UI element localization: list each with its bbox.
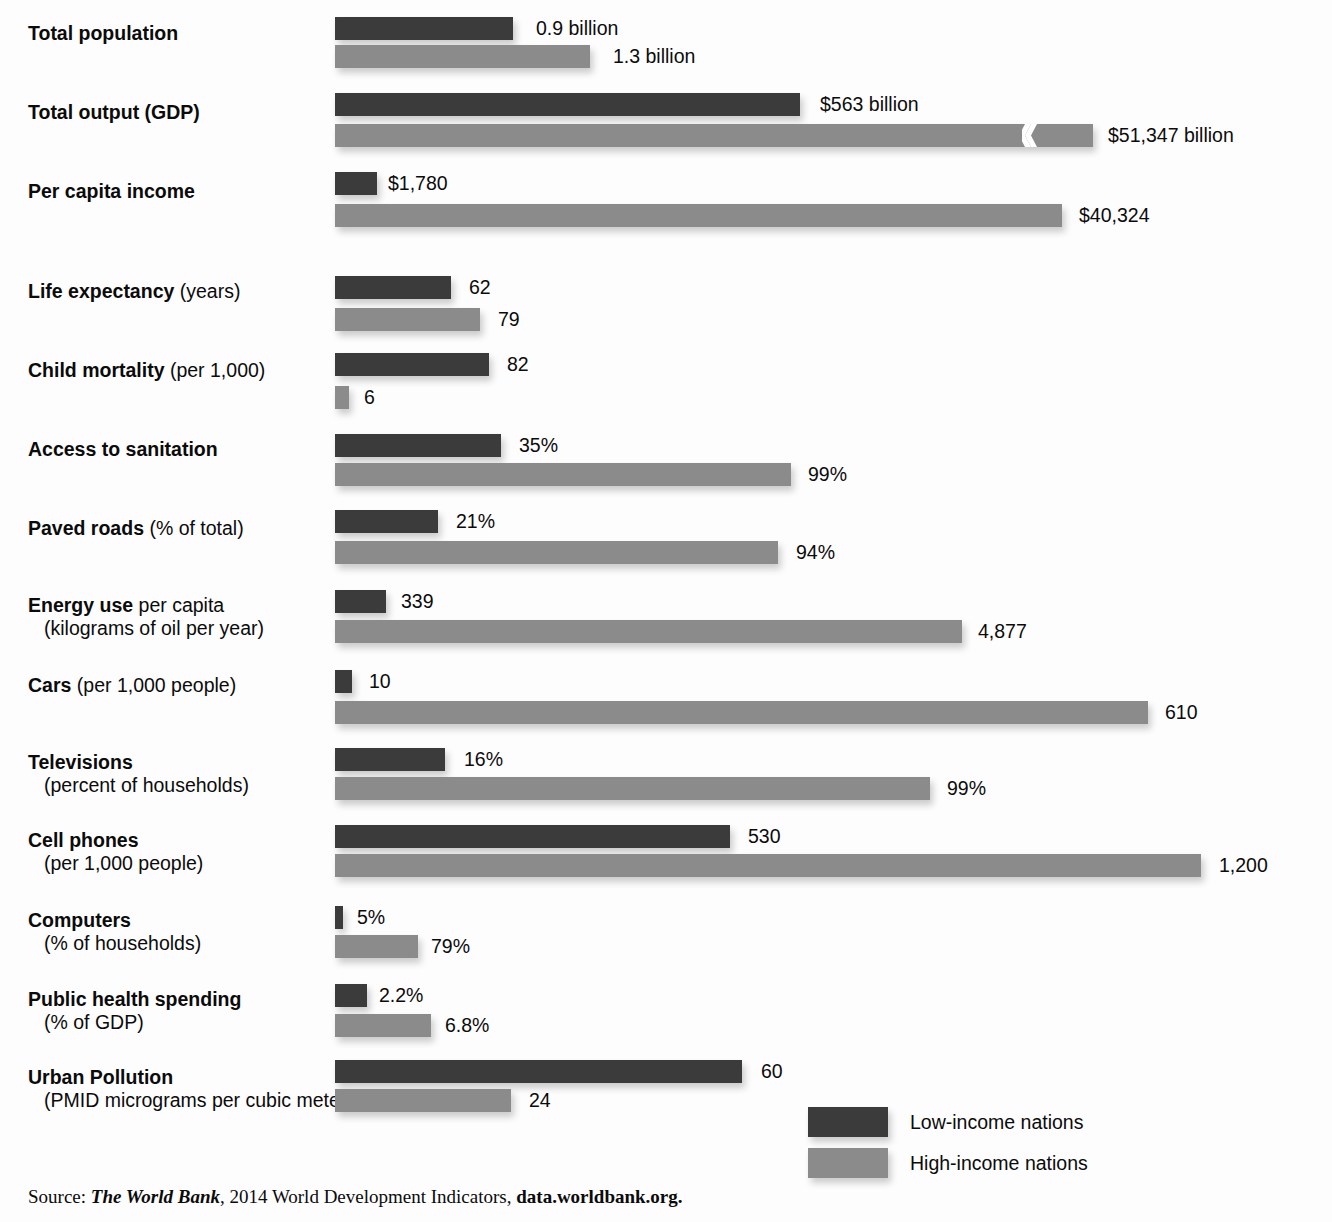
value-label-low-income: 2.2% [379, 984, 423, 1007]
row-label: Paved roads (% of total) [28, 517, 244, 540]
row-label-subtitle: (PMID micrograms per cubic meter) [28, 1089, 353, 1112]
row-label: Life expectancy (years) [28, 280, 240, 303]
value-label-high-income: 4,877 [978, 620, 1027, 643]
bar-high-income [335, 386, 349, 409]
legend-label-low-income: Low-income nations [910, 1110, 1083, 1134]
row-label-main: Total population [28, 22, 178, 44]
source-publication: The World Bank [91, 1186, 220, 1207]
bar-low-income [335, 353, 489, 376]
bar-low-income [335, 1060, 742, 1083]
legend-swatch-low-income [808, 1107, 888, 1137]
value-label-high-income: 1.3 billion [613, 45, 695, 68]
value-label-low-income: 21% [456, 510, 495, 533]
row-label-main: Total output (GDP) [28, 101, 200, 123]
value-label-low-income: 62 [469, 276, 491, 299]
bar-low-income [335, 984, 367, 1007]
bar-low-income [335, 906, 343, 929]
bar-high-income [335, 45, 590, 68]
row-label-subtitle: (% of households) [28, 932, 201, 955]
legend-label-high-income: High-income nations [910, 1151, 1088, 1175]
value-label-high-income: 99% [808, 463, 847, 486]
row-label: Cars (per 1,000 people) [28, 674, 236, 697]
bar-high-income [335, 935, 418, 958]
row-label-main: Per capita income [28, 180, 195, 202]
bar-low-income [335, 748, 445, 771]
bar-low-income [335, 510, 438, 533]
bar-high-income [335, 854, 1201, 877]
value-label-high-income: 6.8% [445, 1014, 489, 1037]
bar-low-income [335, 434, 501, 457]
row-label-subtitle: (kilograms of oil per year) [28, 617, 264, 640]
bar-high-income [335, 1014, 431, 1037]
value-label-low-income: 82 [507, 353, 529, 376]
row-label: Computers(% of households) [28, 909, 201, 955]
row-label-main: Energy use [28, 594, 133, 616]
value-label-high-income: 6 [364, 386, 375, 409]
value-label-low-income: 530 [748, 825, 781, 848]
row-label-main: Urban Pollution [28, 1066, 173, 1088]
bar-low-income [335, 590, 386, 613]
row-label: Energy use per capita(kilograms of oil p… [28, 594, 264, 640]
bar-low-income [335, 276, 451, 299]
bar-high-income [335, 620, 962, 643]
value-label-high-income: 24 [529, 1089, 551, 1112]
value-label-low-income: 16% [464, 748, 503, 771]
value-label-low-income: 10 [369, 670, 391, 693]
row-label-qualifier: (per 1,000 people) [71, 674, 236, 696]
value-label-high-income: $40,324 [1079, 204, 1150, 227]
value-label-high-income: 94% [796, 541, 835, 564]
row-label: Urban Pollution(PMID micrograms per cubi… [28, 1066, 353, 1112]
source-citation: Source: The World Bank, 2014 World Devel… [28, 1186, 683, 1208]
row-label: Child mortality (per 1,000) [28, 359, 265, 382]
axis-break-icon [1022, 124, 1038, 147]
value-label-low-income: 5% [357, 906, 385, 929]
row-label-main: Cars [28, 674, 71, 696]
bar-high-income [335, 701, 1148, 724]
row-label-qualifier: (years) [174, 280, 240, 302]
row-label-qualifier: (% of total) [144, 517, 244, 539]
bar-high-income [335, 777, 930, 800]
row-label-main: Computers [28, 909, 131, 931]
bar-high-income [335, 204, 1062, 227]
source-url: data.worldbank.org. [516, 1186, 682, 1207]
row-label: Televisions(percent of households) [28, 751, 249, 797]
bar-low-income [335, 670, 352, 693]
value-label-low-income: $1,780 [388, 172, 448, 195]
row-label-qualifier: (per 1,000) [165, 359, 266, 381]
row-label-main: Life expectancy [28, 280, 174, 302]
bar-high-income [335, 1089, 511, 1112]
value-label-high-income: 79% [431, 935, 470, 958]
development-indicators-chart: Total population0.9 billion1.3 billionTo… [0, 0, 1332, 1222]
row-label-main: Cell phones [28, 829, 139, 851]
bar-high-income [335, 308, 480, 331]
row-label: Total output (GDP) [28, 101, 200, 124]
value-label-low-income: 35% [519, 434, 558, 457]
row-label-main: Public health spending [28, 988, 241, 1010]
row-label: Total population [28, 22, 178, 45]
source-prefix: Source: [28, 1186, 91, 1207]
value-label-low-income: $563 billion [820, 93, 919, 116]
row-label-main: Access to sanitation [28, 438, 218, 460]
value-label-high-income: 79 [498, 308, 520, 331]
row-label-main: Child mortality [28, 359, 165, 381]
source-middle: , 2014 World Development Indicators, [220, 1186, 516, 1207]
row-label-subtitle: (percent of households) [28, 774, 249, 797]
value-label-low-income: 0.9 billion [536, 17, 618, 40]
row-label: Public health spending(% of GDP) [28, 988, 241, 1034]
row-label-subtitle: (% of GDP) [28, 1011, 241, 1034]
row-label-qualifier: per capita [133, 594, 224, 616]
value-label-high-income: 1,200 [1219, 854, 1268, 877]
row-label: Per capita income [28, 180, 195, 203]
row-label-subtitle: (per 1,000 people) [28, 852, 203, 875]
value-label-high-income: 99% [947, 777, 986, 800]
value-label-low-income: 339 [401, 590, 434, 613]
bar-high-income [335, 124, 1093, 147]
legend-swatch-high-income [808, 1148, 888, 1178]
row-label: Access to sanitation [28, 438, 218, 461]
value-label-high-income: 610 [1165, 701, 1198, 724]
bar-low-income [335, 17, 513, 40]
row-label-main: Televisions [28, 751, 133, 773]
row-label: Cell phones(per 1,000 people) [28, 829, 203, 875]
bar-high-income [335, 463, 791, 486]
bar-low-income [335, 825, 730, 848]
